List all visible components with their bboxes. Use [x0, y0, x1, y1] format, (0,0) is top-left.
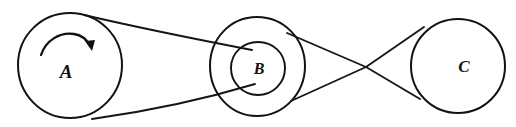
pulley-a: A: [18, 13, 122, 118]
pulley-belt-diagram: A B C: [0, 0, 516, 127]
rotation-arrow-head: [85, 40, 95, 51]
clockwise-rotation-arrow: [41, 34, 95, 55]
belt-a-b-top-run: [84, 15, 252, 50]
pulley-a-label: A: [59, 61, 73, 82]
pulley-c-label: C: [458, 57, 470, 76]
pulley-b-label: B: [253, 60, 265, 77]
pulley-c: C: [411, 19, 505, 113]
diagram-canvas: A B C: [0, 0, 516, 127]
belt-b-to-c: [287, 27, 424, 101]
rotation-arc: [41, 34, 90, 55]
